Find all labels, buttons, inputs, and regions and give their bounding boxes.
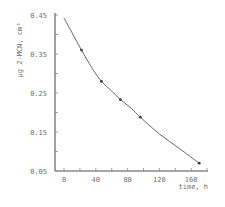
x-tick-label: 0 — [62, 176, 66, 184]
fitted-curve — [64, 18, 199, 163]
y-tick-label: 0.25 — [30, 90, 47, 98]
line-chart: 0.050.150.250.350.45 04080120160 μg 2-MC… — [0, 0, 225, 207]
y-tick-label: 0.35 — [30, 51, 47, 59]
x-tick-label: 120 — [153, 176, 166, 184]
x-axis — [55, 168, 208, 171]
series-layer — [64, 18, 201, 164]
y-axis-title: μg 2-MCN, cm³ — [16, 23, 24, 78]
x-tick-labels: 04080120160 — [62, 176, 198, 184]
y-tick-label: 0.45 — [30, 12, 47, 20]
y-tick-label: 0.15 — [30, 129, 47, 137]
x-tick-label: 40 — [92, 176, 100, 184]
y-tick-label: 0.05 — [30, 168, 47, 176]
x-tick-label: 80 — [123, 176, 131, 184]
y-axis — [55, 13, 58, 171]
y-tick-labels: 0.050.150.250.350.45 — [30, 12, 47, 176]
x-axis-title: time, h — [178, 183, 208, 191]
